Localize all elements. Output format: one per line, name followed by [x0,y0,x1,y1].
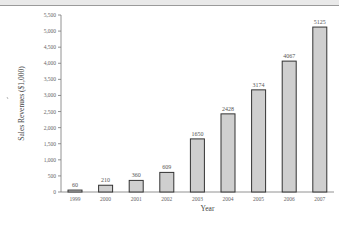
y-tick-label: 0 [53,189,56,195]
x-tick-label: 2005 [253,196,264,202]
x-tick-label: 2004 [223,196,234,202]
bar-2006 [282,61,296,192]
y-tick-label: 500 [48,173,57,179]
x-tick-label: 2006 [284,196,295,202]
bar-2003 [190,139,204,192]
x-tick-label: 2003 [192,196,203,202]
bar-value-label: 2428 [222,106,234,112]
x-axis-title: Year [201,204,215,213]
y-tick-label: 4,000 [44,60,57,66]
bar-value-label: 5125 [314,19,326,25]
x-tick-label: 2002 [161,196,172,202]
y-tick-label: 5,000 [44,28,57,34]
y-tick-label: 1,000 [44,157,57,163]
stray-mark [7,97,8,99]
bar-value-label: 60 [72,182,78,188]
bar-value-label: 3174 [253,82,265,88]
bar-2002 [160,172,174,192]
bar-chart: 05001,0001,5002,0002,5003,0003,5004,0004… [0,0,339,229]
y-tick-label: 4,500 [44,44,57,50]
bar-2005 [252,90,266,192]
bar-1999 [68,190,82,192]
bar-value-label: 210 [101,177,110,183]
x-tick-label: 1999 [70,196,81,202]
bar-2000 [99,185,113,192]
bar-2007 [313,27,327,192]
bar-value-label: 360 [132,172,141,178]
y-tick-label: 2,500 [44,109,57,115]
bar-value-label: 609 [162,164,171,170]
bar-value-label: 1650 [191,131,203,137]
x-tick-label: 2007 [314,196,325,202]
x-tick-label: 2001 [131,196,142,202]
y-tick-label: 1,500 [44,141,57,147]
x-tick-label: 2000 [100,196,111,202]
y-tick-label: 3,000 [44,92,57,98]
y-tick-label: 2,000 [44,125,57,131]
y-axis-title: Sales Revenues ($1,000) [17,66,26,141]
bar-2001 [129,180,143,192]
y-tick-label: 5,500 [44,12,57,18]
y-tick-label: 3,500 [44,76,57,82]
bar-value-label: 4067 [283,53,295,59]
bar-2004 [221,114,235,192]
